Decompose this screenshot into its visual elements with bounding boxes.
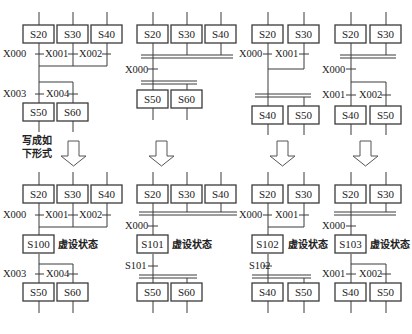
state-label: S50 <box>144 286 162 298</box>
state-label: S60 <box>64 286 82 298</box>
down-arrow-icon <box>61 141 86 166</box>
transition-condition-label: X002 <box>359 89 382 100</box>
transition-condition-label: X003 <box>3 88 26 99</box>
transition-condition-label: X000 <box>125 64 148 75</box>
state-label: S40 <box>259 109 277 121</box>
state-label: S50 <box>30 286 48 298</box>
state-label: S50 <box>295 109 313 121</box>
down-arrow-icon <box>270 141 295 166</box>
transition-condition-label: X002 <box>79 48 102 59</box>
state-label: S30 <box>178 188 196 200</box>
transition-condition-label: X000 <box>322 220 345 231</box>
conversion-arrows <box>61 141 378 166</box>
state-label: S60 <box>178 93 196 105</box>
note-line-2: 下形式 <box>22 147 52 159</box>
state-label: S20 <box>30 28 48 40</box>
virtual-state-label: 虚设状态 <box>370 238 410 250</box>
state-label: S50 <box>295 286 313 298</box>
sfc-diagram-figure: S20S30S40S50S60X000X001X002X003X004S20S3… <box>0 0 412 334</box>
state-label: S20 <box>144 28 162 40</box>
transition-condition-label: X001 <box>322 89 345 100</box>
state-label: S101 <box>141 238 164 250</box>
state-label: S102 <box>256 238 279 250</box>
transition-condition-label: X004 <box>46 268 70 279</box>
transition-condition-label: X001 <box>45 48 68 59</box>
transition-condition-label: X001 <box>45 209 68 220</box>
state-label: S40 <box>212 188 230 200</box>
transition-condition-label: X000 <box>3 209 26 220</box>
state-label: S20 <box>259 188 277 200</box>
state-label: S20 <box>30 188 48 200</box>
state-label: S20 <box>342 188 360 200</box>
transition-condition-label: X000 <box>239 209 262 220</box>
virtual-state-label: 虚设状态 <box>58 238 98 250</box>
transition-condition-label: X001 <box>275 48 298 59</box>
state-label: S100 <box>27 238 50 250</box>
note-line-1: 写成如 <box>22 134 52 146</box>
down-arrow-icon <box>353 141 378 166</box>
state-label: S50 <box>30 106 48 118</box>
diagram-top-4-content: S20S30S40S50X000X001X002 <box>322 25 401 124</box>
state-label: S40 <box>212 28 230 40</box>
transition-condition-label: X000 <box>3 48 26 59</box>
virtual-state-label: 虚设状态 <box>172 238 212 250</box>
transition-condition-label: S101 <box>125 260 147 271</box>
diagram-top-1-content: S20S30S40S50S60X000X001X002X003X004 <box>3 25 122 121</box>
diagram-canvas: S20S30S40S50S60X000X001X002X003X004S20S3… <box>0 0 412 334</box>
state-label: S50 <box>377 109 395 121</box>
transition-condition-label: X001 <box>275 209 298 220</box>
state-label: S60 <box>64 106 82 118</box>
state-label: S30 <box>295 188 313 200</box>
transition-condition-label: S102 <box>249 260 271 271</box>
transition-condition-label: X002 <box>359 268 382 279</box>
transition-condition-label: X000 <box>239 48 262 59</box>
state-label: S60 <box>178 286 196 298</box>
transition-condition-label: X000 <box>125 220 148 231</box>
state-label: S40 <box>342 286 360 298</box>
state-label: S20 <box>342 28 360 40</box>
transition-condition-label: X000 <box>322 64 345 75</box>
state-label: S30 <box>178 28 196 40</box>
state-label: S30 <box>377 28 395 40</box>
state-label: S40 <box>259 286 277 298</box>
state-label: S50 <box>377 286 395 298</box>
state-label: S40 <box>342 109 360 121</box>
state-label: S103 <box>339 238 362 250</box>
transition-condition-label: X003 <box>3 268 26 279</box>
state-label: S20 <box>259 28 277 40</box>
transition-condition-label: X001 <box>322 268 345 279</box>
state-label: S30 <box>64 28 82 40</box>
state-label: S30 <box>295 28 313 40</box>
state-label: S40 <box>98 188 116 200</box>
state-label: S40 <box>98 28 116 40</box>
down-arrow-icon <box>149 141 174 166</box>
diagram-top-2-content: S20S30S40S50S60X000 <box>125 25 236 108</box>
state-label: S50 <box>144 93 162 105</box>
state-label: S20 <box>144 188 162 200</box>
state-label: S30 <box>377 188 395 200</box>
diagram-top-3-content: S20S30S40S50X000X001 <box>239 25 319 124</box>
transition-condition-label: X002 <box>79 209 102 220</box>
virtual-state-label: 虚设状态 <box>288 238 328 250</box>
state-label: S30 <box>64 188 82 200</box>
transition-condition-label: X004 <box>46 88 70 99</box>
